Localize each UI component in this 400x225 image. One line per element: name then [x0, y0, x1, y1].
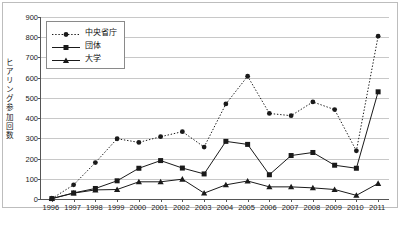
data-point	[375, 180, 381, 186]
x-tickmark-2002	[182, 199, 183, 202]
legend-key-triangle-icon	[51, 52, 81, 63]
data-point	[245, 74, 250, 79]
x-tickmark-2009	[335, 199, 336, 202]
data-point	[93, 160, 98, 165]
x-tickmark-2006	[269, 199, 270, 202]
x-tickmark-2000	[139, 199, 140, 202]
data-point	[376, 89, 381, 94]
data-point	[310, 100, 315, 105]
data-point	[158, 134, 163, 139]
y-tick-label-0: 0	[16, 195, 38, 204]
legend-key-square-icon	[51, 39, 81, 50]
x-tickmark-1997	[74, 199, 75, 202]
chart-figure: ヒアリング参加回数 0100200300400500600700800900 1…	[0, 0, 400, 225]
data-point	[310, 150, 315, 155]
y-tickmark-0	[38, 199, 41, 200]
y-tick-label-600: 600	[16, 73, 38, 82]
x-tickmark-2003	[204, 199, 205, 202]
y-tick-label-700: 700	[16, 53, 38, 62]
x-tickmark-1998	[95, 199, 96, 202]
data-point	[136, 166, 141, 171]
legend-item-3: 大学	[51, 51, 117, 64]
legend-item-1: 中央省庁	[51, 25, 117, 38]
x-tickmark-2004	[226, 199, 227, 202]
data-point	[267, 172, 272, 177]
data-point	[354, 166, 359, 171]
data-point	[158, 158, 163, 163]
data-point	[179, 176, 185, 182]
x-tickmark-1999	[117, 199, 118, 202]
data-point	[115, 178, 120, 183]
series-2	[49, 89, 380, 201]
x-tickmark-2008	[313, 199, 314, 202]
y-tick-label-500: 500	[16, 93, 38, 102]
y-tick-label-200: 200	[16, 154, 38, 163]
y-tick-label-900: 900	[16, 13, 38, 22]
x-tickmark-2011	[378, 199, 379, 202]
data-point	[202, 171, 207, 176]
series-line	[52, 92, 378, 199]
x-tickmark-2007	[291, 199, 292, 202]
data-point	[289, 153, 294, 158]
y-tick-label-800: 800	[16, 33, 38, 42]
data-point	[267, 111, 272, 116]
legend-label: 団体	[85, 39, 101, 50]
data-point	[332, 163, 337, 168]
data-point	[223, 139, 228, 144]
legend-item-2: 団体	[51, 38, 117, 51]
data-point	[202, 145, 207, 150]
x-tick-label-2011: 2011	[362, 203, 392, 212]
x-tickmark-2010	[356, 199, 357, 202]
data-point	[245, 142, 250, 147]
series-3	[49, 176, 381, 201]
data-point	[354, 148, 359, 153]
data-point	[180, 129, 185, 134]
y-tick-label-400: 400	[16, 114, 38, 123]
y-tick-label-300: 300	[16, 134, 38, 143]
x-tickmark-2001	[161, 199, 162, 202]
legend-label: 中央省庁	[85, 26, 117, 37]
data-point	[71, 182, 76, 187]
chart-legend: 中央省庁団体大学	[46, 21, 125, 69]
data-point	[332, 107, 337, 112]
data-point	[115, 136, 120, 141]
legend-key-circle-icon	[51, 26, 81, 37]
data-point	[223, 102, 228, 107]
data-point	[376, 34, 381, 39]
series-line	[52, 179, 378, 198]
legend-label: 大学	[85, 52, 101, 63]
data-point	[136, 140, 141, 145]
data-point	[289, 113, 294, 118]
y-tick-label-100: 100	[16, 174, 38, 183]
data-point	[180, 166, 185, 171]
data-point	[245, 178, 251, 184]
x-tickmark-2005	[248, 199, 249, 202]
y-axis-tick-labels: 0100200300400500600700800900	[14, 0, 38, 225]
